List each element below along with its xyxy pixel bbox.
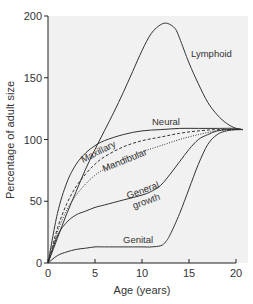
y-tick-label: 150 — [24, 72, 42, 84]
growth-chart: 050100150200 05101520 Age (years) Percen… — [0, 0, 253, 304]
y-axis-title: Percentage of adult size — [4, 81, 16, 199]
label-genital: Genital — [123, 234, 153, 245]
x-tick-label: 15 — [183, 267, 195, 279]
x-tick-label: 10 — [136, 267, 148, 279]
x-tick-label: 0 — [45, 267, 51, 279]
label-lymphoid: Lymphoid — [191, 48, 232, 59]
y-tick-label: 0 — [36, 257, 42, 269]
x-tick-label: 20 — [230, 267, 242, 279]
y-tick-label: 50 — [30, 195, 42, 207]
label-neural: Neural — [152, 116, 180, 127]
y-tick-label: 200 — [24, 10, 42, 22]
y-tick-label: 100 — [24, 134, 42, 146]
y-ticks: 050100150200 — [24, 10, 48, 269]
x-tick-label: 5 — [92, 267, 98, 279]
x-axis-title: Age (years) — [114, 284, 171, 296]
